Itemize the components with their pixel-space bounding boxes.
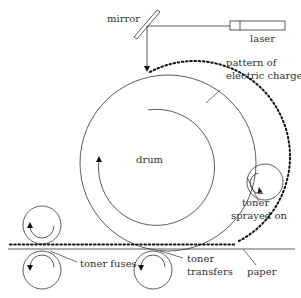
drum-label: drum [136,154,164,165]
paper-label: paper [247,266,277,277]
paper-leader [243,249,256,265]
laser-beam [144,26,230,72]
toner-sprayed-label-line2: sprayed on [231,210,287,221]
toner-roller [247,164,283,200]
toner-fuses-leader [50,251,77,262]
pattern-label-line2: electric charge [226,70,301,81]
laser-printer-diagram: mirror laser pattern of electric charge … [0,0,301,298]
fuser-roller-lower [23,251,61,289]
pattern-leader [206,90,220,103]
fuser-roller-upper [23,206,61,244]
pattern-label-line1: pattern of [226,57,278,68]
toner-transfers-label-line2: transfers [187,266,233,277]
toner-fuses-label: toner fuses [80,258,137,269]
mirror-label: mirror [107,13,140,24]
transfer-roller [134,251,172,289]
laser [230,21,285,30]
toner-sprayed-label-line1: toner [242,197,269,208]
laser-label: laser [250,33,275,44]
toner-transfers-label-line1: toner [187,253,214,264]
drum-rotation-arrow [99,109,215,225]
